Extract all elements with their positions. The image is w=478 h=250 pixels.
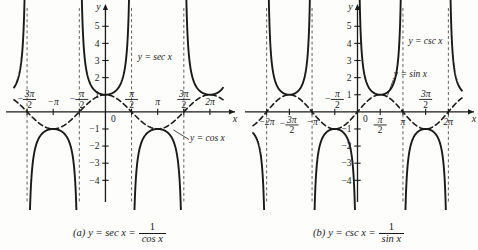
x-tick-label: π2 (374, 115, 387, 135)
minus-sign: − (325, 94, 330, 104)
reciprocal-branch (360, 0, 401, 95)
fraction-denominator: 2 (423, 100, 428, 110)
y-tick-label: −1 (89, 124, 99, 134)
minus-sign: − (70, 94, 75, 104)
panel-csc-x: xy−4−3−2−1123450−2π−3π2−π−π2π2π3π22πy = … (239, 0, 478, 250)
axis-group (245, 4, 474, 202)
x-tick-label: 2π (444, 117, 454, 127)
fraction-denominator: 2 (335, 100, 340, 110)
x-tick-label-text: −2π (259, 117, 275, 127)
fraction-numerator: 3π (286, 115, 297, 125)
y-tick-label: 5 (95, 21, 100, 31)
x-tick-label: −π (306, 117, 317, 127)
x-tick-label-text: 2π (444, 117, 454, 127)
x-tick-label-text: π (401, 117, 406, 127)
minus-sign: − (280, 119, 285, 129)
fraction-numerator: π (378, 115, 383, 125)
caption-panel-b: (b) y = csc x = 1 sin x (239, 222, 478, 244)
fraction-numerator: π (129, 89, 134, 99)
caption-b-lhs: y = csc x = (328, 227, 375, 238)
reciprocal-branch (186, 0, 223, 95)
minus-sign: − (17, 94, 22, 104)
fraction-numerator: 3π (24, 89, 35, 99)
x-tick-label: π (155, 97, 160, 107)
x-tick-label-text: π (155, 97, 160, 107)
sin-curve-label: y = sin x (393, 69, 428, 79)
origin-label: 0 (363, 114, 368, 124)
y-tick-label: 1 (95, 90, 100, 100)
caption-a-prefix: (a) (73, 227, 85, 238)
x-tick-label: −π2 (325, 89, 344, 109)
reciprocal-branch (451, 0, 462, 91)
y-tick-label: 4 (95, 39, 100, 49)
caption-b-numerator: 1 (386, 222, 397, 233)
x-tick-label: −3π2 (280, 115, 299, 135)
reciprocal-branch (30, 129, 77, 210)
y-axis-label: y (347, 1, 353, 12)
y-tick-label: 3 (347, 56, 352, 66)
reciprocal-branch (134, 129, 181, 210)
y-tick-label: −3 (341, 158, 351, 168)
fraction-denominator: 2 (289, 125, 294, 135)
y-tick-label: 2 (347, 73, 352, 83)
caption-panel-a: (a) y = sec x = 1 cos x (0, 222, 239, 244)
sec-curve-label: y = sec x (137, 52, 173, 62)
y-tick-label: −2 (341, 141, 351, 151)
origin-label: 0 (111, 114, 116, 124)
caption-a-denominator: cos x (139, 234, 166, 245)
x-tick-label: −2π (259, 117, 275, 127)
x-tick-label: −3π2 (17, 89, 36, 109)
x-tick-label-text: −π (306, 117, 317, 127)
y-tick-label: 2 (95, 73, 100, 83)
caption-b-denominator: sin x (379, 234, 405, 245)
y-tick-label: 4 (347, 39, 352, 49)
x-axis-label: x (471, 113, 477, 124)
x-tick-label: 3π2 (177, 89, 190, 109)
panel-sec-x: xy−4−3−2−1123450−3π2−π−π2π2π3π22πy = sec… (0, 0, 239, 250)
y-axis-label: y (95, 1, 101, 12)
reciprocal-branch (405, 129, 445, 210)
y-tick-label: −1 (341, 124, 351, 134)
fraction-denominator: 2 (79, 100, 84, 110)
sec-x-plot: xy−4−3−2−1123450−3π2−π−π2π2π3π22πy = sec… (0, 0, 239, 210)
x-tick-label: 3π2 (419, 89, 432, 109)
x-tick-label: −π (48, 97, 59, 107)
csc-x-plot: xy−4−3−2−1123450−2π−3π2−π−π2π2π3π22πy = … (239, 0, 478, 210)
fraction-numerator: π (335, 89, 340, 99)
caption-a-lhs: y = sec x = (88, 227, 135, 238)
cos-label-leader-line (173, 130, 189, 140)
y-tick-label: −2 (89, 141, 99, 151)
y-tick-label: −3 (89, 158, 99, 168)
x-tick-label-text: −π (48, 97, 59, 107)
y-tick-label: −4 (89, 176, 99, 186)
fraction-numerator: 3π (420, 89, 431, 99)
fraction-numerator: π (79, 89, 84, 99)
axis-group (6, 4, 235, 202)
trig-reciprocal-figure: xy−4−3−2−1123450−3π2−π−π2π2π3π22πy = sec… (0, 0, 478, 250)
x-tick-label: −π2 (70, 89, 89, 109)
csc-curve-label: y = csc x (407, 36, 443, 46)
fraction-numerator: 3π (178, 89, 189, 99)
x-tick-label: π (401, 117, 406, 127)
caption-a-fraction: 1 cos x (139, 222, 166, 244)
x-tick-label: 2π (205, 97, 215, 107)
cos-curve-label: y = cos x (189, 133, 225, 143)
label-group: xy−4−3−2−1123450−2π−3π2−π−π2π2π3π22πy = … (259, 1, 477, 186)
y-axis-arrow (103, 4, 108, 10)
fraction-denominator: 2 (378, 125, 383, 135)
reciprocal-branch (269, 0, 310, 95)
fraction-denominator: 2 (27, 100, 32, 110)
fraction-denominator: 2 (129, 100, 134, 110)
y-tick-label: 5 (347, 21, 352, 31)
x-axis-label: x (232, 113, 238, 124)
caption-b-fraction: 1 sin x (379, 222, 405, 244)
caption-a-numerator: 1 (147, 222, 158, 233)
reciprocal-branch (253, 133, 264, 210)
curve-group (14, 0, 223, 210)
caption-b-prefix: (b) (313, 227, 325, 238)
reciprocal-branch (14, 0, 25, 88)
y-tick-label: 1 (347, 90, 352, 100)
y-tick-label: −4 (341, 176, 351, 186)
fraction-denominator: 2 (181, 100, 186, 110)
x-tick-label-text: 2π (205, 97, 215, 107)
